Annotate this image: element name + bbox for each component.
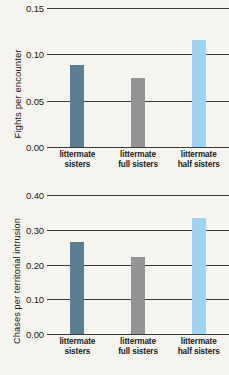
- x-axis-category-label: littermatefull sisters: [108, 150, 169, 169]
- x-axis-category-label: littermatesisters: [47, 150, 108, 169]
- y-axis-tick-label: 0.20: [26, 259, 44, 270]
- gridline: 0.00: [47, 147, 229, 148]
- x-axis-category-label: littermatehalf sisters: [168, 150, 229, 169]
- bar: [131, 257, 145, 334]
- y-axis-tick-label: 0.00: [26, 329, 44, 340]
- x-axis-labels-bottom: littermatesisterslittermatefull sistersl…: [47, 337, 229, 356]
- gridline: 0.00: [47, 334, 229, 335]
- y-axis-tick-label: 0.10: [26, 49, 44, 60]
- y-axis-tick-label: 0.15: [26, 3, 44, 14]
- y-axis-tick-label: 0.05: [26, 95, 44, 106]
- y-axis-title-top: Fights per encounter: [12, 29, 23, 159]
- chart-panel-chases-per-territorial-intrusion: Chases per territorial intrusion 0.000.1…: [0, 187, 229, 375]
- chart-panel-fights-per-encounter: Fights per encounter 0.000.050.100.15 li…: [0, 0, 229, 188]
- gridline: 0.15: [47, 8, 229, 9]
- bar: [70, 242, 84, 334]
- bar: [70, 65, 84, 147]
- figure: Fights per encounter 0.000.050.100.15 li…: [0, 0, 229, 375]
- bar: [192, 40, 206, 147]
- x-axis-category-label: littermatefull sisters: [108, 337, 169, 356]
- y-axis-tick-label: 0.40: [26, 190, 44, 201]
- y-axis-tick-label: 0.00: [26, 142, 44, 153]
- x-axis-category-label: littermatehalf sisters: [168, 337, 229, 356]
- y-axis-tick-label: 0.10: [26, 294, 44, 305]
- bar: [131, 78, 145, 148]
- x-axis-labels-top: littermatesisterslittermatefull sistersl…: [47, 150, 229, 169]
- y-axis-tick-label: 0.30: [26, 224, 44, 235]
- y-axis-title-bottom: Chases per territorial intrusion: [12, 210, 22, 352]
- plot-area-top: 0.000.050.100.15: [47, 8, 229, 147]
- x-axis-category-label: littermatesisters: [47, 337, 108, 356]
- plot-area-bottom: 0.000.100.200.300.40: [47, 195, 229, 334]
- bar: [192, 218, 206, 334]
- gridline: 0.40: [47, 195, 229, 196]
